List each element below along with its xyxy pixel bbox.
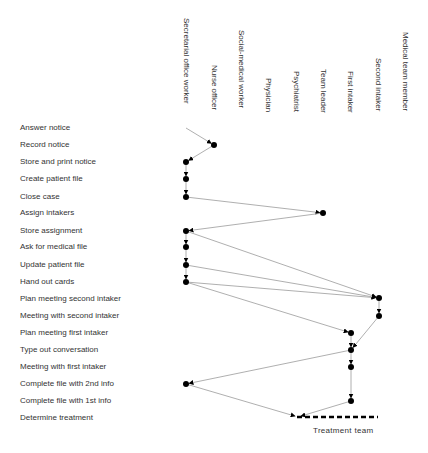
activity-node bbox=[183, 381, 189, 387]
activity-node bbox=[320, 210, 326, 216]
flow-edge bbox=[186, 231, 376, 297]
flow-edge bbox=[353, 316, 379, 348]
activity-node bbox=[183, 228, 189, 234]
flow-edge bbox=[189, 213, 323, 231]
flow-edge bbox=[186, 282, 348, 332]
activity-node bbox=[348, 398, 354, 404]
activity-node bbox=[211, 142, 217, 148]
activity-node bbox=[376, 313, 382, 319]
activity-node bbox=[183, 262, 189, 268]
flow-edge bbox=[186, 265, 376, 297]
flow-edges bbox=[186, 128, 379, 416]
flow-edge bbox=[186, 384, 295, 416]
activity-node bbox=[348, 364, 354, 370]
flow-edge bbox=[301, 401, 351, 416]
flow-edge bbox=[186, 282, 376, 298]
flow-edge bbox=[189, 145, 214, 160]
process-flow-diagram bbox=[0, 0, 428, 453]
activity-node bbox=[183, 176, 189, 182]
activity-node bbox=[376, 295, 382, 301]
flow-edge bbox=[186, 128, 211, 143]
activity-nodes bbox=[183, 142, 382, 404]
activity-node bbox=[348, 347, 354, 353]
activity-node bbox=[183, 194, 189, 200]
flow-edge bbox=[186, 197, 320, 213]
flow-edge bbox=[189, 350, 351, 383]
activity-node bbox=[183, 279, 189, 285]
activity-node bbox=[183, 159, 189, 165]
activity-node bbox=[183, 244, 189, 250]
treatment-team-label: Treatment team bbox=[313, 426, 373, 435]
activity-node bbox=[348, 330, 354, 336]
